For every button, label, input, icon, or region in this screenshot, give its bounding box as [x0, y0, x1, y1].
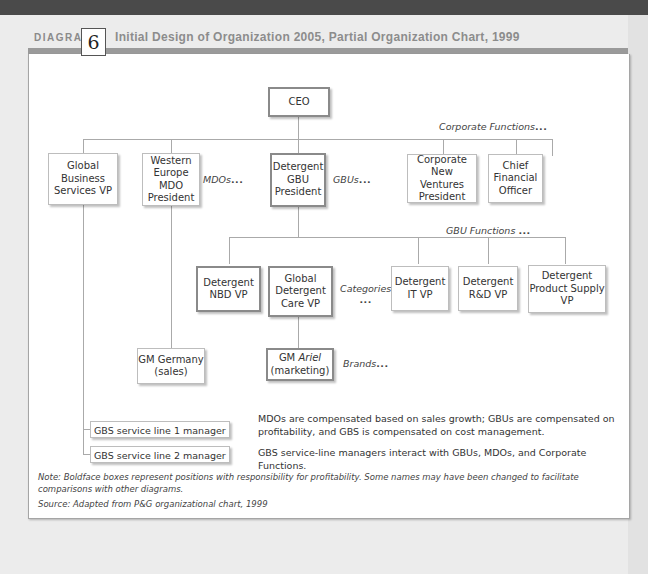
box-text-line: Product Supply [529, 283, 604, 296]
connector-line [418, 237, 419, 264]
box-text: CEO [288, 96, 309, 109]
org-box-western-europe-mdo-president: Western Europe MDO President [142, 153, 200, 206]
box-text-line: GM Germany [138, 354, 204, 367]
box-text-line: Services VP [54, 185, 112, 198]
org-box-gbs-service-line-1-manager: GBS service line 1 manager [90, 421, 230, 438]
box-text-line: Detergent [529, 270, 604, 283]
page-edge-shade [628, 15, 648, 574]
org-box-detergent-gbu-president: Detergent GBU President [270, 153, 326, 207]
box-text-line: IT VP [395, 289, 446, 302]
org-box-global-business-services-vp: Global Business Services VP [48, 153, 118, 205]
interaction-note: GBS service-line managers interact with … [258, 446, 603, 472]
org-box-gm-germany: GM Germany (sales) [137, 348, 205, 384]
connector-line [171, 205, 172, 348]
box-text-line: R&D VP [463, 289, 514, 302]
org-box-detergent-nbd-vp: Detergent NBD VP [196, 266, 261, 312]
box-text-line: GM Ariel [271, 352, 330, 365]
box-text-line: President [148, 192, 195, 205]
box-text-line: Detergent [275, 285, 326, 298]
compensation-note: MDOs are compensated based on sales grow… [258, 412, 623, 438]
connector-line [229, 237, 230, 264]
group-label-categories: Categories ... [340, 283, 391, 305]
org-box-gm-ariel: GM Ariel (marketing) [266, 348, 334, 381]
connector-line [298, 116, 299, 140]
box-text-line: MDO [148, 180, 195, 193]
group-label-gbu-functions: GBU Functions ... [446, 225, 531, 236]
group-label-gbus: GBUs... [333, 174, 371, 185]
box-text-line: Detergent [203, 277, 254, 290]
org-box-chief-financial-officer: Chief Financial Officer [488, 154, 543, 203]
footnote-note: Note: Boldface boxes represent positions… [38, 471, 628, 495]
org-box-detergent-it-vp: Detergent IT VP [391, 266, 449, 311]
org-box-ceo: CEO [268, 87, 330, 117]
box-text-line: Corporate [408, 154, 476, 167]
box-text-line: Financial [494, 172, 538, 185]
group-label-corporate-functions: Corporate Functions... [439, 121, 547, 132]
connector-line [565, 237, 566, 264]
connector-line [443, 139, 444, 154]
box-text-line: GBU [273, 174, 324, 187]
box-text-line: Global [54, 160, 112, 173]
box-text-line: VP [529, 295, 604, 308]
box-text-line: President [408, 191, 476, 204]
box-text-line: Europe [148, 167, 195, 180]
connector-line [229, 237, 565, 238]
org-box-gbs-service-line-2-manager: GBS service line 2 manager [90, 446, 230, 463]
org-box-detergent-product-supply-vp: Detergent Product Supply VP [528, 265, 606, 313]
connector-line [298, 207, 299, 237]
connector-line [83, 139, 553, 140]
box-text-line: Global [275, 273, 326, 286]
diagram-title: Initial Design of Organization 2005, Par… [115, 30, 520, 44]
box-text-line: Care VP [275, 298, 326, 311]
box-text-line: Western [148, 155, 195, 168]
connector-line [552, 139, 553, 156]
box-text-line: Detergent [395, 276, 446, 289]
diagram-number: 6 [81, 28, 106, 56]
footnote-source: Source: Adapted from P&G organizational … [38, 498, 628, 510]
box-text-line: (marketing) [271, 365, 330, 378]
box-text-line: Officer [494, 185, 538, 198]
org-box-corporate-new-ventures-president: Corporate New Ventures President [407, 154, 477, 203]
group-label-brands: Brands... [343, 358, 389, 369]
box-text-line: Business [54, 173, 112, 186]
group-label-mdos: MDOs... [203, 174, 243, 185]
box-text-line: Chief [494, 160, 538, 173]
org-box-global-detergent-care-vp: Global Detergent Care VP [268, 266, 333, 317]
connector-line [516, 139, 517, 154]
box-text-line: Detergent [273, 161, 324, 174]
org-box-detergent-rd-vp: Detergent R&D VP [458, 266, 518, 311]
box-text-line: President [273, 186, 324, 199]
top-dark-bar [0, 0, 648, 15]
box-text-line: Detergent [463, 276, 514, 289]
box-text-line: NBD VP [203, 289, 254, 302]
connector-line [298, 316, 299, 348]
connector-line [171, 139, 172, 153]
box-text-line: New Ventures [408, 166, 476, 191]
connector-line [488, 237, 489, 264]
connector-line [298, 139, 299, 153]
box-text-line: (sales) [138, 366, 204, 379]
